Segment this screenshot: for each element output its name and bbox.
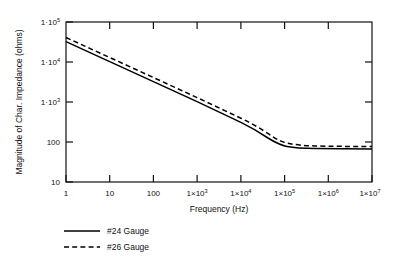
- y-tick-label-mantissa: 10: [51, 178, 60, 187]
- x-tick-label-mantissa: 1×10: [230, 189, 249, 198]
- x-tick-label-exponent: 4: [248, 188, 251, 194]
- x-tick-label-mantissa: 1: [64, 189, 69, 198]
- x-tick-label-mantissa: 1×10: [318, 189, 337, 198]
- x-tick-label-mantissa: 10: [105, 189, 114, 198]
- svg-text:1×104: 1×104: [230, 188, 251, 198]
- x-tick-label-exponent: 6: [336, 188, 339, 194]
- svg-text:10: 10: [105, 189, 114, 198]
- x-tick-label-mantissa: 1×10: [187, 189, 206, 198]
- y-tick-label-mantissa: 1·10: [41, 58, 58, 67]
- svg-text:1: 1: [64, 189, 69, 198]
- svg-text:1×105: 1×105: [274, 188, 295, 198]
- svg-text:1×107: 1×107: [359, 188, 380, 198]
- x-tick-label-exponent: 3: [205, 188, 208, 194]
- y-axis-title: Magnitude of Char. Impedance (ohms): [14, 29, 24, 174]
- svg-text:10: 10: [51, 178, 60, 187]
- svg-text:1×106: 1×106: [318, 188, 339, 198]
- x-tick-label-mantissa: 100: [147, 189, 161, 198]
- y-tick-label-mantissa: 100: [47, 138, 61, 147]
- y-tick-label-exponent: 4: [57, 57, 60, 63]
- x-tick-label-exponent: 5: [292, 188, 295, 194]
- x-axis-title: Frequency (Hz): [190, 204, 249, 214]
- y-tick-label-mantissa: 1·10: [41, 18, 58, 27]
- y-tick-label-mantissa: 1·10: [41, 98, 58, 107]
- impedance-chart-svg: 1·105 1·104 1·103 100 10 1 10: [0, 0, 401, 263]
- x-tick-label-mantissa: 1×10: [274, 189, 293, 198]
- chart-background: [0, 0, 401, 263]
- legend-label-24-gauge: #24 Gauge: [107, 226, 149, 236]
- legend-label-26-gauge: #26 Gauge: [107, 242, 149, 252]
- x-tick-label-exponent: 7: [377, 188, 380, 194]
- chart-figure: 1·105 1·104 1·103 100 10 1 10: [0, 0, 401, 263]
- x-tick-label-mantissa: 1×10: [359, 189, 378, 198]
- svg-text:1×103: 1×103: [187, 188, 208, 198]
- svg-text:100: 100: [47, 138, 61, 147]
- svg-text:100: 100: [147, 189, 161, 198]
- y-tick-label-exponent: 3: [57, 97, 60, 103]
- y-tick-label-exponent: 5: [57, 17, 60, 23]
